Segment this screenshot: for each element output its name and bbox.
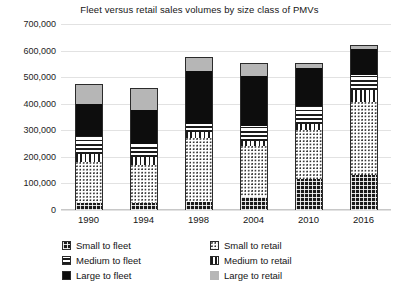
y-axis-labels: 700,000600,000500,000400,000300,000200,0… [0,24,56,210]
y-axis-tick-300000: 300,000 [0,125,56,135]
bar-segment-2004-medium-fleet [240,126,268,141]
bar-segment-2004-large-retail [240,63,268,76]
legend-label-medium-retail: Medium to retail [224,255,292,266]
bar-segment-1990-large-fleet [75,104,103,136]
bar-segment-1998-small-retail [185,138,213,202]
legend-label-large-fleet: Large to fleet [76,270,131,281]
chart-title: Fleet versus retail sales volumes by siz… [0,4,399,15]
legend-item-small-retail[interactable]: Small to retail [210,240,282,251]
legend-item-medium-fleet[interactable]: Medium to fleet [62,255,141,266]
legend-item-large-retail[interactable]: Large to retail [210,270,282,281]
legend-label-small-retail: Small to retail [224,240,282,251]
plot-area [61,24,391,210]
legend-swatch-medium-fleet-icon [62,256,71,265]
bar-segment-1990-medium-fleet [75,136,103,155]
y-axis-tick-400000: 400,000 [0,99,56,109]
gridline-700000 [61,24,391,25]
legend-swatch-small-fleet-icon [62,241,71,250]
x-axis-tick-1994: 1994 [133,214,154,225]
bar-segment-1998-medium-retail [185,132,213,139]
gridline-500000 [61,77,391,78]
bar-segment-1994-small-fleet [130,203,158,210]
x-axis-tick-2016: 2016 [353,214,374,225]
bar-2010[interactable] [295,63,323,210]
y-axis-tick-200000: 200,000 [0,152,56,162]
bar-segment-1990-small-retail [75,162,103,203]
bar-segment-2010-medium-fleet [295,106,323,123]
y-axis-tick-700000: 700,000 [0,19,56,29]
y-axis-tick-500000: 500,000 [0,72,56,82]
gridline-200000 [61,157,391,158]
bar-segment-2010-large-fleet [295,68,323,107]
x-axis-tick-2010: 2010 [298,214,319,225]
bar-segment-2010-small-retail [295,130,323,179]
legend-swatch-large-fleet-icon [62,271,71,280]
bar-segment-1990-medium-retail [75,154,103,162]
bar-1990[interactable] [75,84,103,210]
bar-segment-1990-small-fleet [75,203,103,210]
legend-swatch-large-retail-icon [210,271,219,280]
bar-1994[interactable] [130,88,158,210]
bar-segment-1994-small-retail [130,165,158,204]
legend-label-medium-fleet: Medium to fleet [76,255,141,266]
bar-segment-1998-large-fleet [185,71,213,124]
bar-segment-2010-medium-retail [295,124,323,131]
gridline-400000 [61,104,391,105]
bar-segment-1998-small-fleet [185,202,213,210]
bar-segment-2010-small-fleet [295,179,323,210]
bar-segment-2016-large-fleet [350,49,378,74]
x-axis-labels: 199019941998200420102016 [61,213,391,229]
bar-segment-2004-small-retail [240,146,268,196]
x-axis-tick-2004: 2004 [243,214,264,225]
gridline-600000 [61,51,391,52]
bar-segment-2016-small-fleet [350,175,378,210]
legend-item-medium-retail[interactable]: Medium to retail [210,255,292,266]
bar-segment-1990-large-retail [75,84,103,104]
y-axis-tick-600000: 600,000 [0,46,56,56]
bar-segment-1994-medium-fleet [130,144,158,157]
bar-segment-2016-medium-retail [350,90,378,102]
legend-swatch-medium-retail-icon [210,256,219,265]
bar-segment-1998-large-retail [185,57,213,70]
x-axis-tick-1998: 1998 [188,214,209,225]
y-axis-tick-100000: 100,000 [0,178,56,188]
legend-swatch-small-retail-icon [210,241,219,250]
x-axis-tick-1990: 1990 [78,214,99,225]
bar-segment-1994-medium-retail [130,157,158,165]
legend-item-small-fleet[interactable]: Small to fleet [62,240,131,251]
bar-segment-1998-medium-fleet [185,124,213,132]
gridline-300000 [61,130,391,131]
bar-2016[interactable] [350,45,378,210]
gridline-0 [61,210,391,211]
legend-label-small-fleet: Small to fleet [76,240,131,251]
chart-container: Fleet versus retail sales volumes by siz… [0,0,399,290]
bar-segment-1994-large-fleet [130,110,158,143]
bar-1998[interactable] [185,57,213,210]
bar-segment-2004-large-fleet [240,76,268,126]
gridline-100000 [61,183,391,184]
chart-legend: Small to fleetMedium to fleetLarge to fl… [62,240,352,286]
y-axis-tick-0: 0 [0,205,56,215]
bar-segment-2016-small-retail [350,102,378,175]
legend-label-large-retail: Large to retail [224,270,282,281]
bar-segment-1994-large-retail [130,88,158,111]
bar-segment-2016-medium-fleet [350,75,378,91]
legend-item-large-fleet[interactable]: Large to fleet [62,270,131,281]
bar-2004[interactable] [240,63,268,210]
bar-segment-2004-small-fleet [240,197,268,210]
